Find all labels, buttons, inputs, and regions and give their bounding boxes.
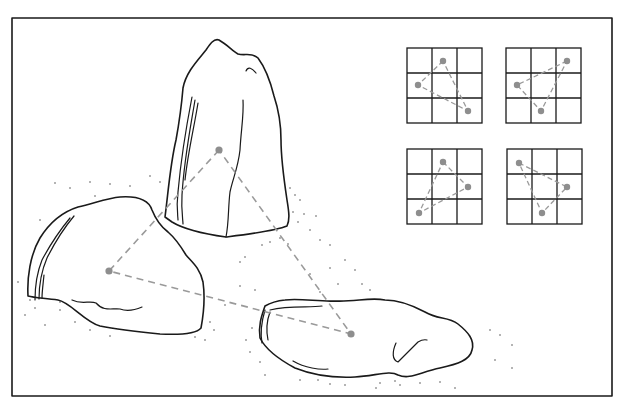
sand-grain	[294, 194, 296, 196]
grid-dot	[564, 184, 570, 190]
grid-diagram-4	[507, 149, 582, 224]
sand-grain	[354, 269, 356, 271]
sand-grain	[17, 281, 19, 283]
rock-center-dot	[215, 146, 222, 153]
grid-dot	[564, 58, 570, 64]
sand-grain	[279, 237, 281, 239]
sand-grain	[394, 380, 396, 382]
sand-grain	[239, 261, 241, 263]
sand-grain	[337, 283, 339, 285]
grid-dot	[538, 108, 544, 114]
grid-diagram-3	[407, 149, 482, 224]
sand-grain	[245, 339, 247, 341]
grid-dot	[440, 159, 446, 165]
sand-grain	[109, 183, 111, 185]
sand-grain	[239, 285, 241, 287]
sand-grain	[419, 382, 421, 384]
rock-center-dot	[347, 330, 354, 337]
sand-grain	[319, 239, 321, 241]
diagram-canvas	[0, 0, 631, 405]
sand-grain	[303, 213, 305, 215]
sand-grain	[74, 321, 76, 323]
sand-grain	[287, 243, 289, 245]
tall-upright-rock	[165, 40, 289, 237]
rock-garden-illustration	[0, 0, 631, 405]
sand-grain	[44, 324, 46, 326]
sand-grain	[315, 215, 317, 217]
grid-dot	[465, 108, 471, 114]
grid-dot	[516, 160, 522, 166]
sand-grain	[319, 291, 321, 293]
grid-diagrams	[407, 48, 582, 224]
sand-grain	[224, 304, 226, 306]
sand-grain	[204, 339, 206, 341]
sand-grain	[254, 289, 256, 291]
sand-grain	[129, 185, 131, 187]
sand-grain	[149, 175, 151, 177]
sand-grain	[344, 384, 346, 386]
sand-grain	[39, 219, 41, 221]
grid-dot	[465, 184, 471, 190]
sand-grain	[69, 187, 71, 189]
sand-grain	[379, 382, 381, 384]
sand-grain	[213, 329, 215, 331]
sand-grain	[499, 334, 501, 336]
sand-grain	[361, 283, 363, 285]
sand-grain	[344, 259, 346, 261]
sand-grain	[297, 221, 299, 223]
rocks-group	[28, 40, 473, 378]
grid-dot	[416, 210, 422, 216]
sand-grain	[264, 374, 266, 376]
sand-grain	[511, 367, 513, 369]
sand-grain	[489, 329, 491, 331]
sand-grain	[309, 229, 311, 231]
sand-grain	[89, 329, 91, 331]
sand-grain	[329, 244, 331, 246]
sand-grain	[494, 359, 496, 361]
sand-grain	[292, 211, 294, 213]
sand-grain	[329, 267, 331, 269]
sand-grain	[244, 256, 246, 258]
sand-grain	[34, 307, 36, 309]
sand-grain	[269, 241, 271, 243]
grid-dot	[415, 82, 421, 88]
sand-grain	[299, 199, 301, 201]
sand-grain	[375, 387, 377, 389]
sand-grain	[309, 273, 311, 275]
sand-grain	[159, 181, 161, 183]
sand-grain	[439, 381, 441, 383]
sand-grain	[209, 321, 211, 323]
grid-diagram-1	[407, 48, 482, 123]
sand-grain	[194, 336, 196, 338]
sand-grain	[54, 182, 56, 184]
grid-dot	[539, 210, 545, 216]
sand-grain	[109, 335, 111, 337]
sand-grain	[29, 299, 31, 301]
sand-grain	[89, 181, 91, 183]
sand-grain	[317, 379, 319, 381]
sand-grain	[24, 314, 26, 316]
sand-grain	[59, 309, 61, 311]
rock-outline	[165, 40, 289, 237]
sand-grain	[329, 383, 331, 385]
sand-grain	[289, 187, 291, 189]
rock-center-dot	[105, 267, 112, 274]
sand-grain	[399, 384, 401, 386]
grid-dot	[514, 82, 520, 88]
sand-grain	[261, 244, 263, 246]
sand-grain	[94, 195, 96, 197]
sand-grain	[251, 327, 253, 329]
sand-grain	[249, 351, 251, 353]
sand-grain	[259, 361, 261, 363]
rock-outline	[259, 299, 472, 377]
grid-dot	[440, 58, 446, 64]
sand-grain	[369, 289, 371, 291]
sand-grain	[299, 379, 301, 381]
sand-grain	[454, 387, 456, 389]
grid-diagram-2	[506, 48, 581, 123]
sand-grain	[511, 344, 513, 346]
flat-lying-rock	[259, 299, 472, 377]
